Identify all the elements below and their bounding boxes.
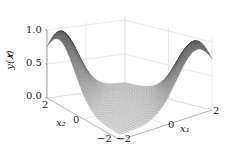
surface-mesh: [47, 31, 212, 135]
x1-tick-2: 2: [213, 106, 219, 116]
surface-plot: [0, 0, 233, 147]
x2-tick-2: 2: [42, 100, 48, 110]
x1-tick-0: 0: [168, 120, 174, 130]
z-tick-0.0: 0.0: [26, 91, 42, 101]
x2-axis-label: x₂: [56, 118, 66, 128]
x1-axis-label: x₁: [180, 124, 190, 134]
x2-tick-neg2: −2: [97, 134, 112, 144]
x1-tick-neg2: −2: [116, 134, 131, 144]
x2-tick-0: 0: [73, 115, 79, 125]
z-tick-1.0: 1.0: [26, 25, 42, 35]
z-axis-label: y(𝒙): [5, 50, 15, 69]
z-tick-0.5: 0.5: [26, 58, 42, 68]
